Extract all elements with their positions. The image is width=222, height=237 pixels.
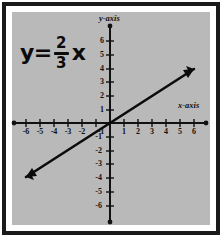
x-tick-label: 5 [173,128,187,136]
x-tick-label: 2 [131,128,145,136]
equation-annotation: y= 2 3 x [20,36,86,71]
x-tick-label: -3 [61,128,75,136]
x-tick-label: 6 [187,128,201,136]
y-tick-label: -5 [88,188,102,196]
y-tick-label: -1 [88,133,102,141]
x-tick-label: 4 [159,128,173,136]
equation-variable: x [72,42,86,64]
y-tick-label: -4 [88,174,102,182]
x-tick-label: -5 [33,128,47,136]
y-tick-label: 2 [90,92,104,100]
x-tick-label: 1 [117,128,131,136]
x-tick-label: 3 [145,128,159,136]
fraction-denominator: 3 [54,56,68,71]
x-tick-label: -2 [75,128,89,136]
x-axis-label: x-axis [178,100,199,110]
y-tick-label: -3 [88,160,102,168]
x-tick-label: -6 [19,128,33,136]
y-tick-label: -6 [88,202,102,210]
x-tick-label: -4 [47,128,61,136]
equation-left-side: y= [20,42,52,64]
graph-screenshot: -6 -5 -4 -3 -2 -1 1 2 3 4 5 6 6 5 4 3 2 … [0,0,222,237]
y-tick-label: 6 [90,37,104,45]
equation-fraction: 2 3 [54,36,69,71]
fraction-numerator: 2 [54,36,68,51]
y-tick-label: 3 [90,78,104,86]
y-axis-label: y-axis [99,13,120,23]
y-tick-label: 4 [90,65,104,73]
y-tick-label: -2 [88,147,102,155]
y-tick-label: 1 [90,106,104,114]
y-tick-label: 5 [90,51,104,59]
